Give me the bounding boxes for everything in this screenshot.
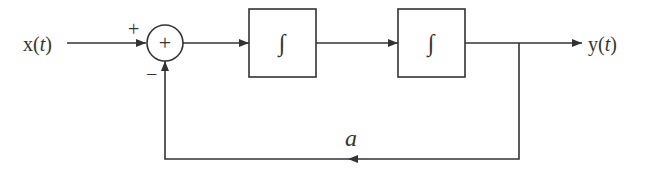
feedback-path bbox=[165, 43, 519, 163]
input-label: x(t) bbox=[23, 33, 52, 56]
block-diagram: x(t) + + − ∫ ∫ y(t) a bbox=[0, 0, 652, 178]
integral-icon: ∫ bbox=[426, 30, 436, 58]
feedback-gain-label: a bbox=[345, 125, 357, 151]
integral-icon: ∫ bbox=[277, 30, 287, 58]
plus-sign-label: + bbox=[128, 18, 139, 40]
output-label: y(t) bbox=[588, 33, 617, 56]
feedback-direction-arrow bbox=[348, 155, 358, 163]
summing-junction: + bbox=[147, 25, 183, 61]
minus-sign-label: − bbox=[146, 63, 157, 85]
integrator-block-1: ∫ bbox=[249, 9, 316, 77]
summer-plus-icon: + bbox=[159, 30, 171, 55]
integrator-block-2: ∫ bbox=[398, 9, 465, 77]
